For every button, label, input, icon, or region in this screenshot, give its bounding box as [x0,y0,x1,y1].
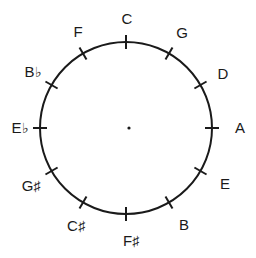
note-letter: E [11,119,21,136]
note-letter: B [24,63,34,80]
note-letter: A [235,119,245,136]
circle-of-fifths-svg [0,0,256,258]
svg-geometry-layer [33,35,219,221]
sharp-icon: ♯ [78,218,85,234]
note-label-e: E [220,176,230,191]
note-label-a: A [235,120,245,135]
note-label-c-sharp: C♯ [67,218,85,233]
note-label-d: D [218,66,229,81]
flat-icon: ♭ [35,64,42,80]
note-label-g-sharp: G♯ [22,178,41,193]
center-dot [127,126,130,129]
note-letter: E [220,175,230,192]
note-label-g: G [176,25,188,40]
note-label-b-flat: B♭ [24,64,41,79]
note-letter: G [22,177,34,194]
note-letter: C [67,217,78,234]
tick-mark-csharp [80,196,87,208]
note-letter: F [123,232,132,249]
tick-mark-flat [166,196,173,208]
note-label-c: C [122,11,133,26]
tick-mark-g [166,47,173,59]
note-label-f: F [73,24,82,39]
sharp-icon: ♯ [33,178,40,194]
note-letter: G [176,24,188,41]
circle-outline [40,42,212,214]
note-label-e-flat: E♭ [11,120,28,135]
tick-mark-gsharp [45,168,57,175]
tick-mark-d [194,82,206,89]
note-letter: D [218,65,229,82]
flat-icon: ♭ [22,120,29,136]
note-letter: B [179,216,189,233]
sharp-icon: ♯ [132,233,139,249]
note-letter: C [122,10,133,27]
tick-mark-f [80,47,87,59]
tick-mark-e [194,168,206,175]
note-label-f-sharp: F♯ [123,233,139,248]
circle-of-fifths-diagram: CGDAEBF♯C♯G♯E♭B♭F [0,0,256,258]
tick-mark-flatb [45,82,57,89]
note-letter: F [73,23,82,40]
note-label--flat: B [179,217,189,232]
